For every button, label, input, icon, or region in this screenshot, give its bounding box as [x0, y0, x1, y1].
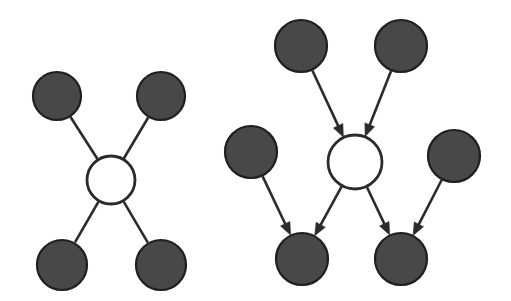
bottom-right-node[interactable] [136, 240, 186, 290]
middle-right-node[interactable] [428, 130, 480, 182]
bottom-left-child-node[interactable] [276, 233, 328, 285]
figure-canvas [0, 0, 511, 301]
top-left-node[interactable] [33, 72, 81, 120]
top-left-parent-node[interactable] [275, 20, 327, 72]
center-node[interactable] [87, 156, 135, 204]
bottom-right-child-node[interactable] [375, 233, 427, 285]
top-right-parent-node[interactable] [375, 20, 427, 72]
top-right-node[interactable] [137, 72, 185, 120]
center-node[interactable] [328, 135, 382, 189]
bottom-left-node[interactable] [37, 240, 87, 290]
figure-root [0, 0, 511, 301]
middle-left-node[interactable] [225, 126, 277, 178]
